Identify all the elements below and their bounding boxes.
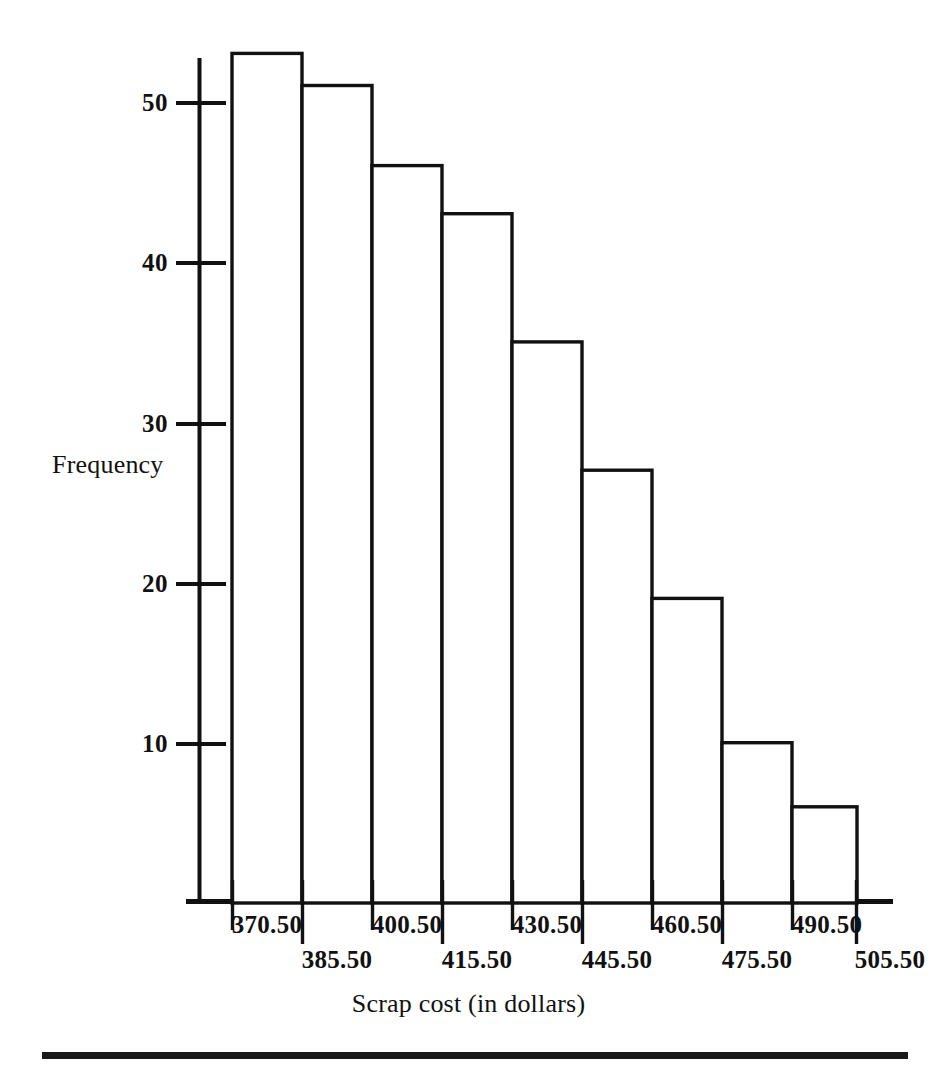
x-axis-title: Scrap cost (in dollars): [0, 991, 937, 1017]
y-tick-label-20: 20: [112, 571, 168, 596]
histogram-figure: 50 40 30 20 10 Frequency 370.50 400.50 4…: [0, 0, 937, 1076]
x-tick-label-385-50: 385.50: [267, 947, 407, 972]
x-tick-label-400-50: 400.50: [337, 912, 477, 937]
bar-445-460[interactable]: [582, 470, 652, 903]
histogram-bars: [232, 53, 857, 903]
bar-370-385[interactable]: [232, 53, 302, 903]
y-tick-label-50: 50: [112, 90, 168, 115]
bar-475-490[interactable]: [722, 743, 792, 903]
y-tick-label-40: 40: [112, 250, 168, 275]
x-tick-label-460-50: 460.50: [617, 912, 757, 937]
x-tick-label-415-50: 415.50: [407, 947, 547, 972]
x-tick-label-445-50: 445.50: [547, 947, 687, 972]
x-tick-label-430-50: 430.50: [477, 912, 617, 937]
y-tick-label-30: 30: [112, 411, 168, 436]
x-tick-label-370-50: 370.50: [197, 912, 337, 937]
bar-430-445[interactable]: [512, 342, 582, 903]
bar-490-505[interactable]: [792, 807, 857, 903]
bar-415-430[interactable]: [442, 214, 512, 903]
bar-385-400[interactable]: [302, 86, 372, 904]
x-tick-label-475-50: 475.50: [687, 947, 827, 972]
y-axis-title: Frequency: [52, 452, 164, 478]
y-tick-label-10: 10: [112, 731, 168, 756]
x-tick-label-505-50: 505.50: [820, 947, 937, 972]
bar-460-475[interactable]: [652, 598, 722, 903]
bar-400-415[interactable]: [372, 166, 442, 903]
bottom-divider-rule: [42, 1052, 908, 1059]
x-tick-label-490-50: 490.50: [757, 912, 897, 937]
